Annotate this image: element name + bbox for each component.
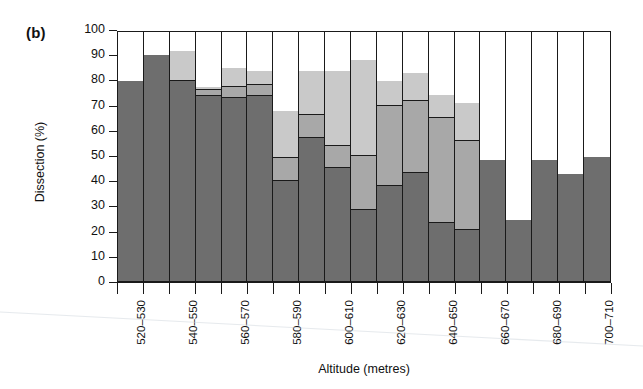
bar-column — [144, 32, 170, 282]
x-axis-tick — [117, 283, 118, 294]
bar-segment — [273, 181, 298, 282]
bar-segment — [506, 220, 531, 283]
x-axis-tick — [533, 283, 534, 294]
bar-segment — [170, 51, 195, 81]
x-tick-label: 620–630 — [395, 300, 407, 345]
x-axis-tick — [507, 283, 508, 294]
bar-segment — [351, 60, 376, 156]
y-tick-mark — [109, 106, 117, 107]
x-axis-tick — [195, 283, 196, 294]
bar-column — [299, 32, 325, 282]
bar-column — [325, 32, 351, 282]
y-tick-label: 20 — [91, 224, 105, 238]
y-tick-label: 80 — [91, 72, 105, 86]
bar-segment — [325, 168, 350, 282]
x-axis-tick — [481, 283, 482, 294]
bar-column — [480, 32, 506, 282]
bar-segment — [118, 81, 143, 282]
bar-segment — [351, 156, 376, 210]
x-tick-label: 660–670 — [499, 300, 511, 345]
bar-segment — [144, 55, 169, 283]
bar-segment — [196, 32, 221, 87]
bar-column — [403, 32, 429, 282]
y-tick-mark — [109, 55, 117, 56]
x-tick-label: 560–570 — [239, 300, 251, 345]
bar-column — [351, 32, 377, 282]
bar-segment — [144, 32, 169, 55]
bar-segment — [429, 118, 454, 223]
y-tick-mark — [109, 257, 117, 258]
bar-column — [584, 32, 610, 282]
bar-segment — [325, 146, 350, 169]
y-tick-label: 0 — [98, 274, 105, 288]
bar-column — [506, 32, 532, 282]
bar-segment — [429, 223, 454, 282]
bar-segment — [299, 138, 324, 282]
x-axis-tick — [585, 283, 586, 294]
bar-column — [247, 32, 273, 282]
bar-segment — [377, 106, 402, 186]
x-axis-title: Altitude (metres) — [117, 362, 611, 376]
x-tick-label: 600–610 — [343, 300, 355, 345]
bar-segment — [196, 96, 221, 282]
x-axis-tick — [403, 283, 404, 294]
bar-column — [532, 32, 558, 282]
x-axis-tick — [325, 283, 326, 294]
x-axis-tick — [559, 283, 560, 294]
bar-segment — [351, 32, 376, 60]
y-tick-label: 100 — [84, 22, 105, 36]
bar-column — [170, 32, 196, 282]
y-tick-mark — [109, 131, 117, 132]
x-axis-tick — [221, 283, 222, 294]
bar-segment — [222, 68, 247, 87]
y-tick-mark — [109, 181, 117, 182]
y-tick-label: 50 — [91, 148, 105, 162]
bar-segment — [429, 95, 454, 119]
bar-column — [196, 32, 222, 282]
bar-segment — [480, 160, 505, 283]
x-axis-tick — [377, 283, 378, 294]
x-tick-label: 520–530 — [135, 300, 147, 345]
x-tick-label: 540–550 — [187, 300, 199, 345]
x-axis-tick — [351, 283, 352, 294]
bar-segment — [455, 141, 480, 230]
x-tick-label: 640–650 — [447, 300, 459, 345]
bar-segment — [299, 115, 324, 139]
y-tick-mark — [109, 30, 117, 31]
bar-segment — [377, 81, 402, 106]
bar-segment — [299, 32, 324, 71]
bar-segment — [403, 173, 428, 282]
bar-segment — [247, 32, 272, 71]
bar-segment — [299, 71, 324, 115]
bar-segment — [558, 32, 583, 174]
bar-segment — [532, 160, 557, 283]
bar-segment — [325, 32, 350, 71]
bar-segment — [273, 32, 298, 111]
y-tick-mark — [109, 232, 117, 233]
y-tick-mark — [109, 156, 117, 157]
bar-column — [118, 32, 144, 282]
bar-segment — [429, 32, 454, 95]
y-tick-label: 60 — [91, 123, 105, 137]
bar-segment — [247, 96, 272, 282]
bar-segment — [222, 98, 247, 282]
bar-segment — [455, 230, 480, 283]
y-tick-mark — [109, 282, 117, 283]
bar-segment — [480, 32, 505, 160]
scan-artifact-line — [0, 306, 643, 354]
plot-area — [117, 31, 611, 283]
x-axis-tick — [611, 283, 612, 294]
x-tick-label: 580–590 — [291, 300, 303, 345]
bar-segment — [584, 32, 610, 157]
bar-segment — [170, 32, 195, 51]
bar-segment — [506, 32, 531, 220]
bar-segment — [222, 87, 247, 98]
bar-segment — [455, 103, 480, 141]
bar-segment — [222, 32, 247, 68]
bar-segment — [247, 71, 272, 85]
bar-segment — [273, 111, 298, 159]
bar-column — [455, 32, 481, 282]
x-axis-tick — [299, 283, 300, 294]
bar-segment — [377, 186, 402, 282]
bar-column — [429, 32, 455, 282]
